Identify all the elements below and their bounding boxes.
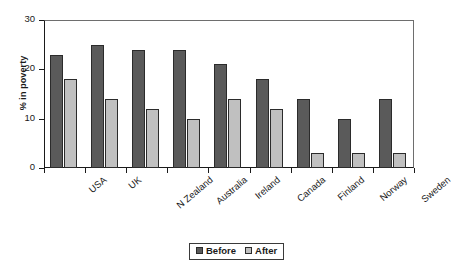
bar-after-uk[interactable] <box>105 99 118 168</box>
bar-before-norway[interactable] <box>338 119 351 168</box>
x-axis-tick-mark <box>126 168 127 173</box>
x-axis-tick-mark <box>291 168 292 173</box>
bar-before-sweden[interactable] <box>379 99 392 168</box>
x-axis-tick-mark <box>414 168 415 173</box>
bar-after-usa[interactable] <box>64 79 77 168</box>
x-axis-label-usa: USA <box>86 174 108 195</box>
bar-group <box>208 20 249 168</box>
bar-group <box>291 20 332 168</box>
x-axis-label-n-zealand: N Zealand <box>174 174 215 211</box>
bar-group <box>126 20 167 168</box>
bar-group <box>167 20 208 168</box>
bar-before-australia[interactable] <box>173 50 186 168</box>
chart-legend: Before After <box>189 243 284 260</box>
x-axis-label-canada: Canada <box>295 174 328 204</box>
y-axis-tick-label: 10 <box>24 112 35 123</box>
x-axis-label-ireland: Ireland <box>253 174 282 201</box>
bar-before-usa[interactable] <box>50 55 63 168</box>
legend-label-after: After <box>255 246 277 256</box>
bar-after-norway[interactable] <box>352 153 365 168</box>
x-axis-tick-mark <box>44 168 45 173</box>
bar-group <box>85 20 126 168</box>
legend-swatch-before-icon <box>196 247 203 254</box>
bar-group <box>373 20 414 168</box>
legend-entry-after[interactable]: After <box>245 246 277 256</box>
legend-swatch-after-icon <box>245 247 252 254</box>
bar-before-uk[interactable] <box>91 45 104 168</box>
legend-entry-before[interactable]: Before <box>196 246 236 256</box>
bar-after-ireland[interactable] <box>228 99 241 168</box>
x-axis-label-australia: Australia <box>214 174 249 206</box>
bar-before-canada[interactable] <box>256 79 269 168</box>
x-axis-tick-mark <box>85 168 86 173</box>
x-axis-label-uk: UK <box>126 174 143 191</box>
bar-before-ireland[interactable] <box>214 64 227 168</box>
bars-layer <box>44 20 414 168</box>
bar-before-finland[interactable] <box>297 99 310 168</box>
y-axis-tick-label: 0 <box>30 161 35 172</box>
bar-after-australia[interactable] <box>187 119 200 168</box>
x-axis-tick-mark <box>167 168 168 173</box>
bar-after-sweden[interactable] <box>393 153 406 168</box>
x-axis-label-sweden: Sweden <box>419 174 452 205</box>
x-axis-tick-mark <box>250 168 251 173</box>
bar-group <box>332 20 373 168</box>
x-axis-tick-mark <box>332 168 333 173</box>
x-axis-tick-mark <box>208 168 209 173</box>
x-axis-tick-mark <box>373 168 374 173</box>
y-axis-tick-label: 20 <box>24 62 35 73</box>
y-axis-tick-label: 30 <box>24 13 35 24</box>
bar-group <box>250 20 291 168</box>
bar-after-finland[interactable] <box>311 153 324 168</box>
bar-after-n-zealand[interactable] <box>146 109 159 168</box>
bar-after-canada[interactable] <box>270 109 283 168</box>
x-axis-label-norway: Norway <box>377 174 409 203</box>
x-axis-label-finland: Finland <box>336 174 367 202</box>
legend-label-before: Before <box>206 246 236 256</box>
bar-before-n-zealand[interactable] <box>132 50 145 168</box>
bar-group <box>44 20 85 168</box>
